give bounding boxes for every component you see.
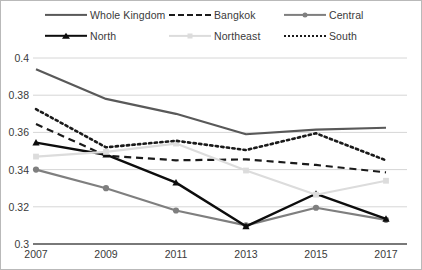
plot-svg xyxy=(1,49,422,270)
chart-legend: Whole Kingdom Bangkok Central North xyxy=(1,7,422,49)
data-point-marker xyxy=(33,167,39,173)
plot-area: 0.40.380.360.340.320.3 20072009201120132… xyxy=(1,49,422,270)
series-line xyxy=(36,170,386,226)
x-tick-label: 2011 xyxy=(153,248,199,260)
data-point-marker xyxy=(103,149,109,155)
data-point-marker xyxy=(103,185,109,191)
y-tick-label: 0.4 xyxy=(0,52,29,64)
y-tick-label: 0.34 xyxy=(0,164,29,176)
data-point-marker xyxy=(243,168,249,174)
data-point-marker xyxy=(33,154,39,160)
series-central xyxy=(33,167,389,229)
series-whole-kingdom xyxy=(36,69,386,134)
legend-label-central: Central xyxy=(329,9,364,21)
y-tick-label: 0.36 xyxy=(0,126,29,138)
x-tick-label: 2009 xyxy=(83,248,129,260)
legend-item-south[interactable]: South xyxy=(284,28,357,43)
dotted-line-key xyxy=(284,30,326,41)
legend-item-bangkok[interactable]: Bangkok xyxy=(169,7,256,22)
y-tick-label: 0.38 xyxy=(0,89,29,101)
dashed-line-key xyxy=(169,9,211,20)
solid-light-square-key xyxy=(169,30,211,41)
x-tick-label: 2015 xyxy=(293,248,339,260)
x-tick-label: 2013 xyxy=(223,248,269,260)
series-line xyxy=(36,124,386,172)
y-tick-label: 0.32 xyxy=(0,201,29,213)
series-bangkok xyxy=(36,124,386,172)
data-point-marker xyxy=(383,178,389,184)
legend-item-whole-kingdom[interactable]: Whole Kingdom xyxy=(45,7,165,22)
legend-label-northeast: Northeast xyxy=(214,30,260,42)
legend-item-northeast[interactable]: Northeast xyxy=(169,28,260,43)
legend-item-central[interactable]: Central xyxy=(284,7,364,22)
solid-black-triangle-key xyxy=(45,30,87,41)
series-line xyxy=(36,69,386,134)
legend-label-whole-kingdom: Whole Kingdom xyxy=(90,9,165,21)
solid-mid-circle-key xyxy=(284,9,326,20)
legend-item-north[interactable]: North xyxy=(45,28,116,43)
legend-label-south: South xyxy=(329,30,357,42)
data-point-marker xyxy=(173,207,179,213)
data-point-marker xyxy=(313,192,319,198)
legend-label-north: North xyxy=(90,30,116,42)
x-tick-label: 2017 xyxy=(363,248,409,260)
x-tick-label: 2007 xyxy=(13,248,59,260)
line-chart-figure: Whole Kingdom Bangkok Central North xyxy=(0,0,422,270)
data-point-marker xyxy=(313,205,319,211)
legend-label-bangkok: Bangkok xyxy=(214,9,256,21)
solid-dark-line-key xyxy=(45,9,87,20)
